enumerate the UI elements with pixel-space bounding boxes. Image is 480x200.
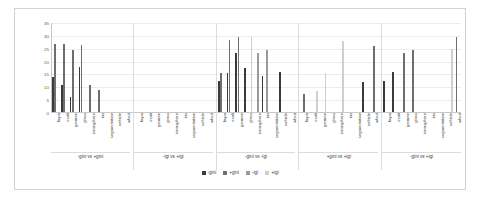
x-axis-category-label: german	[240, 113, 244, 127]
bar	[373, 46, 375, 112]
bar	[244, 68, 246, 112]
x-axis-category-label: glass	[166, 113, 170, 123]
x-axis-category-label: segmentation	[192, 113, 196, 138]
y-axis-tick-label: 0	[47, 112, 49, 116]
x-axis-category-label: vehicle	[201, 113, 205, 126]
x-axis-category-label: glass	[249, 113, 253, 123]
x-axis-category-label: glass	[83, 113, 87, 123]
x-axis-category-label: german	[323, 113, 327, 127]
y-axis-tick-label: 30	[44, 35, 49, 39]
y-axis-tick-label: 15	[44, 73, 49, 77]
group-caption: -gini vs +gini	[51, 155, 130, 160]
bar	[266, 50, 268, 112]
x-axis-category-label: ecoli	[397, 113, 401, 122]
legend-swatch-icon	[202, 171, 206, 175]
bar-series-container	[52, 23, 461, 112]
x-axis-category-label: iris	[101, 113, 105, 118]
legend-swatch-icon	[265, 171, 269, 175]
y-axis-tick-label: 25	[44, 48, 49, 52]
plot-area: 05101520253035	[51, 23, 461, 113]
x-axis-category-label: vehicle	[449, 113, 453, 126]
group-caption-rule	[134, 152, 213, 153]
chart-screenshot: 05101520253035 bupaecoligermanglassionos…	[0, 0, 480, 200]
bar	[383, 81, 385, 112]
x-axis-category-label: ecoli	[66, 113, 70, 122]
legend-swatch-icon	[246, 171, 250, 175]
legend-label: -gini	[208, 171, 217, 176]
bar	[251, 37, 253, 112]
legend-item[interactable]: -gini	[202, 171, 217, 176]
x-axis-labels: bupaecoligermanglassionosphereirissegmen…	[51, 113, 461, 153]
x-axis-category-label: wbcd	[375, 113, 379, 123]
bar	[316, 91, 318, 112]
y-axis-tick-label: 35	[44, 22, 49, 26]
bar	[54, 44, 56, 112]
bar	[362, 82, 364, 112]
group-captions: -gini vs +gini-igi vs +igi-gini vs -igi+…	[51, 155, 461, 167]
x-axis-category-label: iris	[432, 113, 436, 118]
bar	[456, 37, 458, 112]
x-axis-category-label: bupa	[388, 113, 392, 122]
bar	[229, 40, 231, 112]
x-axis-category-label: ionosphere	[92, 113, 96, 134]
x-axis-category-label: ecoli	[231, 113, 235, 122]
bar	[303, 94, 305, 112]
bar	[81, 45, 83, 112]
x-axis-category-label: segmentation	[358, 113, 362, 138]
bar	[89, 85, 91, 112]
x-axis-category-label: wbcd	[127, 113, 131, 123]
x-axis-category-label: wbcd	[458, 113, 462, 123]
legend-label: -igi	[252, 171, 258, 176]
x-axis-category-label: wbcd	[293, 113, 297, 123]
bar	[451, 49, 453, 112]
y-axis-tick-label: 20	[44, 60, 49, 64]
plot-inner: 05101520253035	[51, 23, 461, 113]
x-axis-category-label: iris	[266, 113, 270, 118]
legend-label: +gini	[229, 171, 239, 176]
chart-frame: 05101520253035 bupaecoligermanglassionos…	[14, 8, 466, 190]
x-axis-category-label: vehicle	[118, 113, 122, 126]
x-axis-category-label: ionosphere	[423, 113, 427, 134]
legend-swatch-icon	[223, 171, 227, 175]
bar	[392, 72, 394, 112]
legend-item[interactable]: +igi	[265, 171, 278, 176]
legend-item[interactable]: +gini	[223, 171, 239, 176]
x-axis-category-label: segmentation	[275, 113, 279, 138]
x-axis-category-label: ecoli	[149, 113, 153, 122]
x-axis-category-label: german	[406, 113, 410, 127]
x-axis-category-label: bupa	[305, 113, 309, 122]
x-axis-category-label: ionosphere	[175, 113, 179, 134]
legend-item[interactable]: -igi	[246, 171, 258, 176]
bar	[257, 53, 259, 112]
group-caption-rule	[217, 152, 296, 153]
x-axis-category-label: segmentation	[441, 113, 445, 138]
y-axis-tick-label: 10	[44, 86, 49, 90]
x-axis-category-label: glass	[414, 113, 418, 123]
group-caption: -gini vs -igi	[217, 155, 296, 160]
bar	[262, 76, 264, 112]
x-axis-category-label: vehicle	[284, 113, 288, 126]
bar	[342, 41, 344, 112]
bar	[412, 50, 414, 112]
x-axis-category-label: glass	[332, 113, 336, 123]
bar	[72, 50, 74, 112]
x-axis-category-label: bupa	[57, 113, 61, 122]
x-axis-category-label: iris	[349, 113, 353, 118]
bar	[403, 53, 405, 112]
y-axis-tick-label: 5	[47, 99, 49, 103]
x-axis-category-label: wbcd	[210, 113, 214, 123]
chart-legend: -gini+gini-igi+igi	[15, 171, 465, 176]
x-axis-category-label: vehicle	[367, 113, 371, 126]
x-axis-category-label: ionosphere	[340, 113, 344, 134]
bar	[98, 90, 100, 112]
x-axis-category-label: ionosphere	[258, 113, 262, 134]
group-caption: +gini vs +igi	[299, 155, 378, 160]
group-caption: -igi vs +igi	[134, 155, 213, 160]
group-caption-rule	[382, 152, 461, 153]
legend-label: +igi	[271, 171, 278, 176]
x-axis-category-label: german	[74, 113, 78, 127]
bar	[238, 37, 240, 112]
group-caption-rule	[299, 152, 378, 153]
group-caption: -gini vs +igi	[382, 155, 461, 160]
x-axis-category-label: segmentation	[110, 113, 114, 138]
